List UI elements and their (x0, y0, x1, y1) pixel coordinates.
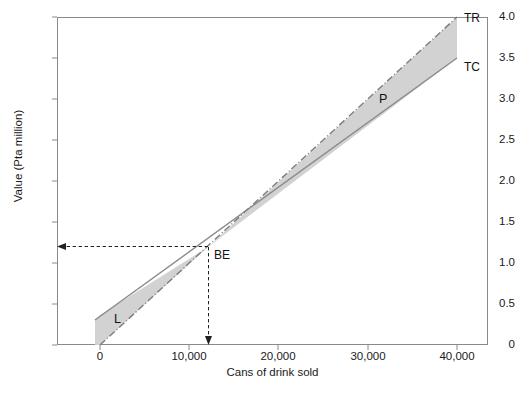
y-tick-label: 0.5 (477, 298, 515, 309)
breakeven-vertical-arrowhead (205, 336, 212, 345)
y-tick-label: 1.0 (477, 257, 515, 268)
x-tick-label: 40,000 (417, 350, 497, 362)
y-tick-label: 2.0 (477, 175, 515, 186)
break-even-chart-figure: 4.0 3.5 3.0 2.5 2.0 1.5 1.0 0.5 0 0 10,0… (0, 0, 515, 394)
x-axis-title: Cans of drink sold (57, 366, 488, 378)
y-tick-label: 4.0 (477, 11, 515, 22)
y-tick-label: 2.5 (477, 134, 515, 145)
x-tick-label: 20,000 (238, 350, 318, 362)
y-axis-title: Value (Pta million) (12, 86, 24, 226)
x-tick-label: 0 (60, 350, 140, 362)
chart-vector-layer (0, 0, 515, 394)
x-tick-label: 30,000 (328, 350, 408, 362)
y-tick-label: 3.0 (477, 93, 515, 104)
x-tick-label: 10,000 (149, 350, 229, 362)
y-tick-label: 3.5 (477, 52, 515, 63)
y-axis-ticks (52, 17, 57, 345)
loss-region-label: L (114, 313, 121, 325)
total-cost-line (95, 58, 457, 320)
breakeven-label: BE (214, 249, 230, 261)
profit-region-label: P (379, 93, 387, 105)
total-cost-label: TC (464, 61, 480, 73)
y-tick-label: 0 (477, 339, 515, 350)
breakeven-horizontal-arrowhead (57, 243, 66, 250)
y-tick-label: 1.5 (477, 216, 515, 227)
total-revenue-label: TR (464, 12, 480, 24)
loss-region (100, 247, 208, 345)
